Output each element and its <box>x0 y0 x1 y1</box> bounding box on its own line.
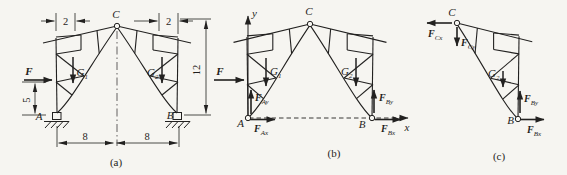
force-f-label-a: F <box>24 65 33 77</box>
apex-hinge-b <box>307 21 312 26</box>
support-left-label-a: A <box>35 110 43 122</box>
apex-label-a: C <box>112 8 120 20</box>
panel-c: C FCx FCy G2 FBy FBx B (c) <box>427 6 544 163</box>
force-f-label-b: F <box>215 65 224 77</box>
force-cx-label: FCx <box>427 28 443 42</box>
dim-span-right-value-a: 8 <box>144 131 149 142</box>
caption-b: (b) <box>328 147 341 160</box>
reaction-by-label-b: FBy <box>378 92 394 106</box>
support-right-label-a: B <box>167 109 174 121</box>
support-label-c: B <box>507 114 514 126</box>
panel-b: y x C F G1 G2 FAy FAx FBy FBx A B (b) <box>214 5 410 160</box>
reaction-bx-label-b: FBx <box>380 123 396 137</box>
apex-label-b: C <box>305 5 313 17</box>
apex-hinge-a <box>114 23 119 28</box>
reaction-ax-label: FAx <box>253 123 269 137</box>
support-left-label-b: A <box>236 117 244 129</box>
force-cy-label: FCy <box>460 37 476 51</box>
load-g2-label-a: G2 <box>147 66 159 81</box>
dim-height-value-a: 12 <box>191 65 202 76</box>
reaction-ay-label: FAy <box>254 92 270 106</box>
load-g1-label-a: G1 <box>77 66 88 81</box>
apex-hinge-c <box>454 20 459 25</box>
dim-top-right-a <box>134 13 193 34</box>
frame-b <box>234 24 387 118</box>
x-axis-label: x <box>404 121 410 133</box>
dim-force-height-value-a: 5 <box>21 97 32 102</box>
dim-span-left-value-a: 8 <box>82 131 87 142</box>
reaction-by-label-c: FBy <box>523 93 539 107</box>
statics-figure: C 2 2 12 5 <box>0 0 567 175</box>
panel-a: C 2 2 12 5 <box>21 8 211 169</box>
caption-a: (a) <box>110 156 123 169</box>
support-right-label-b: B <box>359 118 366 130</box>
figure-canvas: C 2 2 12 5 <box>0 0 567 175</box>
pin-a-b <box>245 115 250 120</box>
caption-c: (c) <box>493 150 506 163</box>
apex-label-c: C <box>448 6 456 18</box>
dim-top-right-value-a: 2 <box>166 16 171 27</box>
support-a-left <box>44 113 69 129</box>
pin-b-c <box>515 116 520 121</box>
dim-top-left-value-a: 2 <box>63 16 68 27</box>
dim-span-a <box>57 126 179 147</box>
reaction-bx-label-c: FBx <box>526 124 542 138</box>
y-axis-label: y <box>251 7 257 19</box>
pin-b-b <box>369 115 374 120</box>
